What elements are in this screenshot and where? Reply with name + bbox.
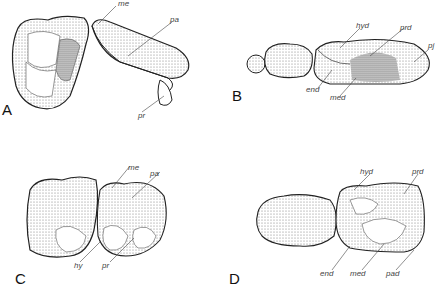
label-d-end: end bbox=[320, 270, 333, 278]
label-d-pad: pad bbox=[386, 270, 399, 278]
panel-letter-c: C bbox=[15, 271, 26, 286]
panel-letter-d: D bbox=[229, 271, 240, 286]
label-c-me: me bbox=[128, 164, 139, 172]
label-a-me: me bbox=[118, 0, 129, 8]
label-d-med: med bbox=[350, 270, 366, 278]
label-d-hyd: hyd bbox=[360, 168, 373, 176]
label-a-pr: pr bbox=[138, 112, 145, 120]
label-b-prd: prd bbox=[400, 24, 412, 32]
label-b-pj: pj bbox=[428, 42, 434, 50]
label-b-end: end bbox=[306, 86, 319, 94]
label-c-hy: hy bbox=[74, 262, 82, 270]
panel-a-premolar bbox=[92, 20, 189, 106]
label-b-med: med bbox=[330, 94, 346, 102]
panel-letter-b: B bbox=[232, 88, 242, 103]
label-a-pa: pa bbox=[170, 16, 179, 24]
panel-d-teeth bbox=[257, 183, 425, 252]
tooth-illustrations bbox=[0, 0, 436, 293]
panel-letter-a: A bbox=[2, 102, 12, 117]
label-d-prd: prd bbox=[412, 168, 424, 176]
panel-b-teeth bbox=[247, 39, 429, 84]
label-c-pr: pr bbox=[102, 262, 109, 270]
label-b-hyd: hyd bbox=[356, 22, 369, 30]
label-c-pa: pa bbox=[150, 170, 159, 178]
panel-a-molar bbox=[12, 16, 88, 108]
